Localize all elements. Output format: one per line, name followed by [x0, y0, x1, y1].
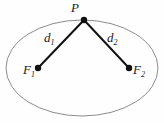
focus-f2-label: F2 — [133, 63, 145, 76]
ellipse-foci-diagram: P d1 d2 F1 F2 — [0, 0, 164, 123]
focal-radius-d2-label: d2 — [107, 31, 118, 44]
focus-f1-label-base: F — [23, 62, 31, 77]
focus-f2-label-sub: 2 — [141, 70, 145, 79]
focus-f1-label: F1 — [23, 63, 35, 76]
focus-f1-label-sub: 1 — [31, 70, 35, 79]
focal-radius-d1-label-sub: 1 — [51, 38, 55, 47]
focus-f1-dot — [35, 65, 41, 71]
focal-radius-d1-label-base: d — [44, 30, 51, 45]
focus-f2-dot — [126, 65, 132, 71]
focal-radius-d2-label-sub: 2 — [114, 38, 118, 47]
point-p-dot — [81, 17, 87, 23]
focal-radius-d1-label: d1 — [44, 31, 55, 44]
point-p-label: P — [71, 1, 79, 14]
point-p-label-text: P — [71, 0, 79, 15]
focus-f2-label-base: F — [133, 62, 141, 77]
focal-radius-d2-label-base: d — [107, 30, 114, 45]
